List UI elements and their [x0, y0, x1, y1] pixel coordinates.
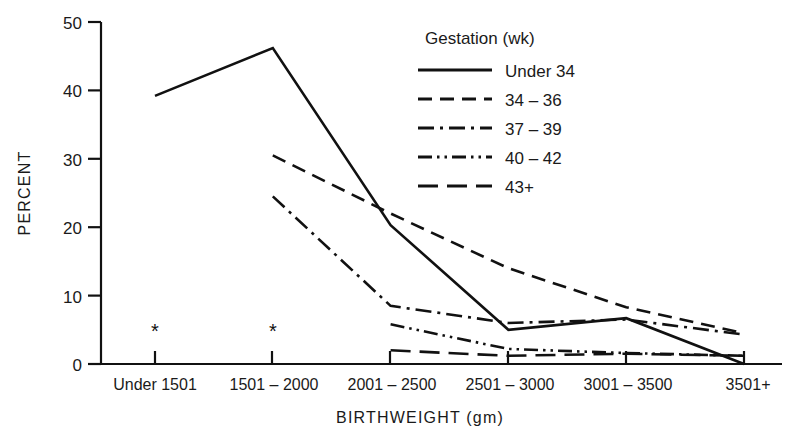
x-category-label: 3501+: [726, 376, 771, 393]
series-line-37-39: [273, 196, 744, 334]
line-chart-canvas: 50 40 30 20 10 0 PERCENT Under 1501: [0, 0, 787, 440]
series-line-40-42: [391, 324, 744, 355]
y-axis-ticks: [88, 22, 101, 364]
legend-item-34-36[interactable]: 34 – 36: [418, 91, 562, 110]
y-tick-label: 0: [73, 356, 82, 375]
y-axis-title: PERCENT: [16, 151, 33, 236]
y-axis: 50 40 30 20 10 0 PERCENT: [16, 14, 101, 375]
legend-label: 34 – 36: [505, 91, 562, 110]
chart-figure: 50 40 30 20 10 0 PERCENT Under 1501: [0, 0, 787, 440]
x-category-label: 2501 – 3000: [466, 376, 555, 393]
missing-data-asterisk: *: [269, 320, 277, 342]
x-axis-title: BIRTHWEIGHT (gm): [336, 409, 504, 426]
y-tick-label: 20: [63, 219, 82, 238]
y-tick-label: 40: [63, 82, 82, 101]
x-axis: Under 1501 1501 – 2000 2001 – 2500 2501 …: [101, 351, 782, 426]
x-category-label: 2001 – 2500: [348, 376, 437, 393]
missing-data-asterisk: *: [151, 320, 159, 342]
y-tick-label: 10: [63, 288, 82, 307]
legend-item-37-39[interactable]: 37 – 39: [418, 120, 562, 139]
y-axis-tick-labels: 50 40 30 20 10 0: [63, 14, 82, 375]
y-tick-label: 50: [63, 14, 82, 33]
legend-label: 37 – 39: [505, 120, 562, 139]
legend-label: Under 34: [505, 62, 575, 81]
x-category-label: 3001 – 3500: [584, 376, 673, 393]
x-category-label: 1501 – 2000: [230, 376, 319, 393]
y-tick-label: 30: [63, 151, 82, 170]
legend-item-43-plus[interactable]: 43+: [418, 178, 534, 197]
legend-label: 40 – 42: [505, 149, 562, 168]
x-category-label: Under 1501: [113, 376, 197, 393]
legend-label: 43+: [505, 178, 534, 197]
x-axis-category-labels: Under 1501 1501 – 2000 2001 – 2500 2501 …: [113, 376, 770, 393]
series-line-under-34: [155, 48, 744, 364]
annotation-layer: **: [151, 320, 277, 342]
legend-title: Gestation (wk): [425, 29, 535, 48]
series-layer: [155, 48, 744, 364]
legend-item-40-42[interactable]: 40 – 42: [418, 149, 562, 168]
legend-item-under-34[interactable]: Under 34: [418, 62, 575, 81]
legend: Gestation (wk) Under 34 34 – 36 37 – 39 …: [418, 29, 575, 197]
